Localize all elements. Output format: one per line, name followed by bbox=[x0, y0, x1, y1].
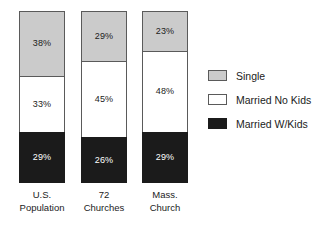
category-label-mass-church: Mass. Church bbox=[119, 188, 211, 214]
bar-segment-value: 26% bbox=[95, 156, 113, 165]
legend-swatch-icon bbox=[208, 94, 227, 105]
legend-item-label: Married W/Kids bbox=[236, 118, 308, 130]
bar-segment-value: 48% bbox=[156, 87, 174, 96]
bar-segment-value: 45% bbox=[95, 95, 113, 104]
category-label-line: Mass. bbox=[119, 188, 211, 201]
legend-item-married-no-kids: Married No Kids bbox=[208, 90, 319, 109]
bar-segment-value: 38% bbox=[33, 39, 51, 48]
bar-segment-single: 38% bbox=[19, 11, 65, 77]
bar-group-mass-church: 23% 48% 29% bbox=[142, 11, 188, 183]
bar-segment-value: 29% bbox=[156, 153, 174, 162]
legend-swatch-icon bbox=[208, 118, 227, 129]
bar-segment-single: 29% bbox=[81, 11, 127, 62]
bar-segment-married-with-kids: 29% bbox=[142, 132, 188, 183]
bar-stack: 23% 48% 29% bbox=[142, 11, 188, 183]
bar-group-us-population: 38% 33% 29% bbox=[19, 11, 65, 183]
bar-segment-married-no-kids: 48% bbox=[142, 51, 188, 134]
bar-segment-married-with-kids: 26% bbox=[81, 137, 127, 183]
legend-item-married-with-kids: Married W/Kids bbox=[208, 114, 319, 133]
legend-item-label: Married No Kids bbox=[236, 94, 311, 106]
category-label-line: Church bbox=[119, 201, 211, 214]
bar-segment-value: 23% bbox=[156, 27, 174, 36]
plot-area: 38% 33% 29% 29% 45% 26% bbox=[0, 0, 200, 227]
bar-segment-single: 23% bbox=[142, 11, 188, 52]
bar-segment-married-no-kids: 45% bbox=[81, 61, 127, 139]
bar-segment-married-no-kids: 33% bbox=[19, 76, 65, 133]
bar-segment-value: 33% bbox=[33, 100, 51, 109]
bar-segment-value: 29% bbox=[95, 32, 113, 41]
bar-stack: 38% 33% 29% bbox=[19, 11, 65, 183]
legend-item-label: Single bbox=[236, 70, 265, 82]
legend-swatch-icon bbox=[208, 70, 227, 81]
bar-segment-value: 29% bbox=[33, 153, 51, 162]
bar-segment-married-with-kids: 29% bbox=[19, 132, 65, 183]
legend-item-single: Single bbox=[208, 66, 319, 85]
bar-group-72-churches: 29% 45% 26% bbox=[81, 11, 127, 183]
bar-stack: 29% 45% 26% bbox=[81, 11, 127, 183]
chart-legend: Single Married No Kids Married W/Kids bbox=[208, 66, 319, 133]
chart-figure: 38% 33% 29% 29% 45% 26% bbox=[0, 0, 319, 227]
